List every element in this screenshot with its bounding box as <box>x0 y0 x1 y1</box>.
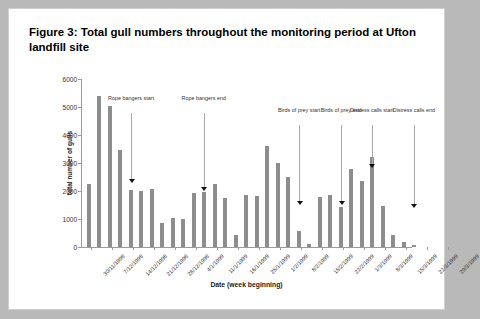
annotation-leader-line <box>204 113 205 188</box>
annotation-label: Distress calls end <box>390 107 438 114</box>
x-tick-mark <box>217 247 218 250</box>
x-tick-mark <box>175 247 176 250</box>
bar <box>370 157 374 247</box>
x-tick-label: 16/1/1999 <box>248 253 270 275</box>
x-tick-label: 8/3/1999 <box>395 253 415 273</box>
x-tick-mark <box>238 247 239 250</box>
bar <box>349 169 353 247</box>
annotation-leader-line <box>131 113 132 180</box>
annotation-leader-line <box>372 125 373 165</box>
bar <box>181 219 185 247</box>
bar <box>297 231 301 247</box>
x-tick-mark <box>385 247 386 250</box>
chart-plot-area: total number of gulls 010002000300040005… <box>29 65 429 297</box>
bar <box>118 150 122 247</box>
annotation-arrowhead <box>339 201 345 205</box>
y-tick-mark <box>78 219 81 220</box>
bar <box>223 198 227 247</box>
x-tick-label: 14/12/1998 <box>144 253 168 277</box>
annotation-label: Rope bangers start <box>107 95 155 102</box>
x-tick-mark <box>427 247 428 250</box>
bar <box>381 206 385 247</box>
x-tick-mark <box>301 247 302 250</box>
y-tick-label: 1000 <box>63 216 77 223</box>
y-tick-mark <box>78 135 81 136</box>
bar <box>276 163 280 247</box>
y-tick-mark <box>78 107 81 108</box>
annotation-leader-line <box>341 125 342 202</box>
annotation-arrowhead <box>201 187 207 191</box>
x-tick-label: 30/11/1998 <box>102 253 126 277</box>
bar <box>202 192 206 247</box>
annotation-arrowhead <box>129 179 135 183</box>
y-tick-label: 2000 <box>63 188 77 195</box>
bar <box>160 223 164 247</box>
bar <box>412 245 416 247</box>
x-tick-label: 1/3/1999 <box>374 253 394 273</box>
x-tick-mark <box>196 247 197 250</box>
x-tick-mark <box>280 247 281 250</box>
bar <box>150 189 154 247</box>
x-tick-label: 21/12/1998 <box>165 253 189 277</box>
x-tick-mark <box>112 247 113 250</box>
bar <box>234 235 238 247</box>
x-tick-label: 8/2/1999 <box>310 253 330 273</box>
bar <box>192 193 196 247</box>
x-tick-label: 22/2/1999 <box>353 253 375 275</box>
x-tick-mark <box>343 247 344 250</box>
figure-page: Figure 3: Total gull numbers throughout … <box>8 8 445 310</box>
x-tick-mark <box>322 247 323 250</box>
x-tick-mark <box>154 247 155 250</box>
x-axis-title: Date (week beginning) <box>81 281 412 288</box>
x-tick-label: 15/3/1999 <box>416 253 438 275</box>
bar <box>108 106 112 247</box>
bar <box>129 190 133 247</box>
annotation-arrowhead <box>369 164 375 168</box>
x-tick-label: 22/3/1999 <box>437 253 459 275</box>
x-tick-mark <box>133 247 134 250</box>
x-tick-mark <box>448 247 449 250</box>
bar <box>318 197 322 247</box>
bar <box>97 96 101 247</box>
y-tick-label: 6000 <box>63 76 77 83</box>
x-tick-label: 25/1/1999 <box>269 253 291 275</box>
bar <box>171 218 175 247</box>
x-tick-label: 15/2/1999 <box>332 253 354 275</box>
x-tick-mark <box>406 247 407 250</box>
bar <box>265 146 269 247</box>
annotation-arrowhead <box>297 201 303 205</box>
x-tick-label: 11/1/1999 <box>227 253 249 275</box>
bar <box>339 207 343 247</box>
annotation-label: Rope bangers end <box>180 95 228 102</box>
bar <box>87 184 91 247</box>
y-tick-label: 4000 <box>63 132 77 139</box>
y-tick-mark <box>78 191 81 192</box>
bar <box>139 191 143 247</box>
annotation-label: Birds of prey start <box>275 107 323 114</box>
figure-title: Figure 3: Total gull numbers throughout … <box>29 25 429 55</box>
x-tick-mark <box>91 247 92 250</box>
x-tick-label: 29/3/1999 <box>458 253 480 275</box>
y-tick-label: 3000 <box>63 160 77 167</box>
y-tick-mark <box>78 79 81 80</box>
y-tick-mark <box>78 163 81 164</box>
annotation-arrowhead <box>411 204 417 208</box>
y-tick-label: 5000 <box>63 104 77 111</box>
annotation-leader-line <box>414 125 415 205</box>
x-tick-mark <box>364 247 365 250</box>
bar <box>286 177 290 247</box>
bar <box>244 195 248 247</box>
x-tick-label: 28/12/1998 <box>186 253 210 277</box>
bar <box>255 196 259 247</box>
y-tick-label: 0 <box>73 244 77 251</box>
x-tick-label: 1/2/1999 <box>289 253 309 273</box>
annotation-leader-line <box>299 125 300 202</box>
annotation-label: Distress calls start <box>348 107 396 114</box>
bar <box>213 184 217 247</box>
axis-inner-area: total number of gulls 010002000300040005… <box>81 79 411 247</box>
bar <box>391 235 395 247</box>
x-tick-mark <box>259 247 260 250</box>
bar <box>360 181 364 247</box>
bar <box>328 195 332 247</box>
